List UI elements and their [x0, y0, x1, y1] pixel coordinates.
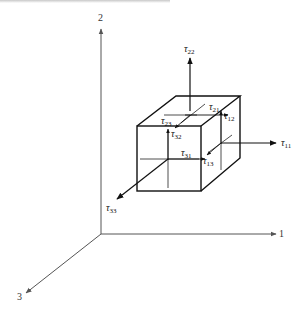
tau33-label: τ33 [106, 203, 117, 215]
tau31-label: τ31 [181, 148, 192, 160]
tau23-label: τ23 [161, 116, 172, 128]
tau22-label: τ22 [184, 44, 195, 56]
tau11-label: τ11 [281, 138, 291, 150]
face-center-lines [140, 104, 232, 188]
tau32-label: τ32 [171, 129, 182, 141]
tau13-arrow [207, 143, 221, 155]
normal-stress-arrows [117, 58, 276, 199]
tau13-label: τ13 [203, 156, 214, 168]
axis-3-label: 3 [17, 292, 22, 302]
tau12-label: τ12 [224, 111, 235, 123]
tau21-label: τ21 [209, 102, 220, 114]
diagram-canvas [0, 0, 306, 316]
coordinate-axes [26, 29, 276, 293]
axis-3-line [26, 234, 101, 293]
tau33-arrow [117, 159, 168, 199]
axis-2-label: 2 [98, 13, 103, 23]
axis-1-label: 1 [279, 229, 284, 239]
stress-element-diagram: 2 1 3 τ22 τ11 τ33 τ21 τ23 τ32 τ12 τ31 τ1… [0, 0, 306, 316]
